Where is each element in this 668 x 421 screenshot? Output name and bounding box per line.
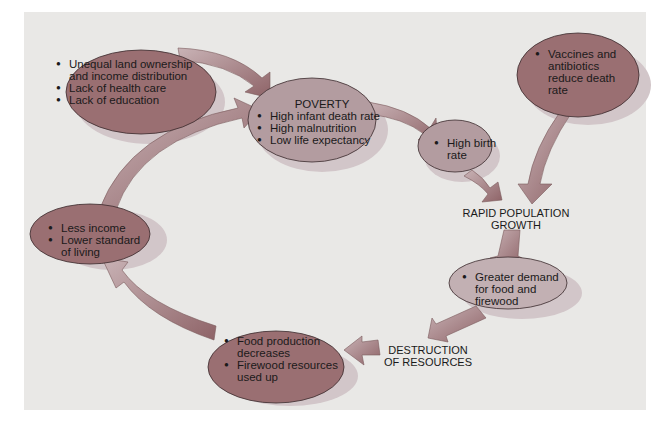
income-item: Lower standard (48, 234, 148, 246)
arrow-vaccines-to-growth (518, 112, 572, 204)
food-item: Food production (224, 335, 344, 347)
destruction-line: OF RESOURCES (378, 356, 478, 368)
vaccines-item-cont: antibiotics (535, 60, 635, 72)
birth-item-cont: rate (434, 149, 504, 161)
demand-text: Greater demand for food and firewood (462, 271, 572, 307)
poverty-item: Low life expectancy (257, 134, 387, 146)
cause-item: Lack of health care (56, 82, 206, 94)
income-item-cont: of living (48, 246, 148, 258)
cause-item: Lack of education (56, 94, 206, 106)
growth-line: GROWTH (456, 219, 576, 231)
destruction-label: DESTRUCTION OF RESOURCES (378, 344, 478, 368)
growth-line: RAPID POPULATION (456, 207, 576, 219)
income-text: Less income Lower standard of living (48, 222, 148, 258)
arrow-destruction-to-food (344, 336, 380, 365)
food-item-cont: decreases (224, 347, 344, 359)
vaccines-item-cont: rate (535, 84, 635, 96)
poverty-heading: POVERTY (257, 98, 387, 110)
cause-item-cont: and income distribution (56, 70, 206, 82)
vaccines-text: Vaccines and antibiotics reduce death ra… (535, 48, 635, 96)
birth-text: High birth rate (434, 137, 504, 161)
income-item: Less income (48, 222, 148, 234)
vaccines-item-cont: reduce death (535, 72, 635, 84)
poverty-item: High infant death rate (257, 110, 387, 122)
poverty-text: POVERTY High infant death rate High maln… (257, 98, 387, 146)
causes-text: Unequal land ownership and income distri… (56, 58, 206, 106)
rapid-growth-label: RAPID POPULATION GROWTH (456, 207, 576, 231)
food-item: Firewood resources (224, 359, 344, 371)
food-text: Food production decreases Firewood resou… (224, 335, 344, 383)
arrow-food-to-income (102, 258, 216, 340)
arrow-demand-to-destruction (428, 306, 486, 342)
destruction-line: DESTRUCTION (378, 344, 478, 356)
demand-item-cont: firewood (462, 295, 572, 307)
cause-item: Unequal land ownership (56, 58, 206, 70)
birth-item: High birth (434, 137, 504, 149)
poverty-item: High malnutrition (257, 122, 387, 134)
demand-item-cont: for food and (462, 283, 572, 295)
vaccines-item: Vaccines and (535, 48, 635, 60)
food-item-cont: used up (224, 371, 344, 383)
demand-item: Greater demand (462, 271, 572, 283)
